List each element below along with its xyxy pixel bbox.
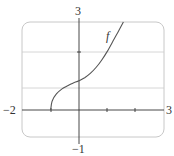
- plot-frame: [22, 22, 164, 137]
- x-max-label: 3: [166, 104, 172, 116]
- function-plot: [0, 0, 174, 156]
- function-label: f: [106, 30, 109, 42]
- curve-f: [51, 22, 124, 110]
- y-min-label: −1: [72, 143, 85, 155]
- x-min-label: −2: [3, 104, 16, 116]
- y-max-label: 3: [75, 5, 81, 17]
